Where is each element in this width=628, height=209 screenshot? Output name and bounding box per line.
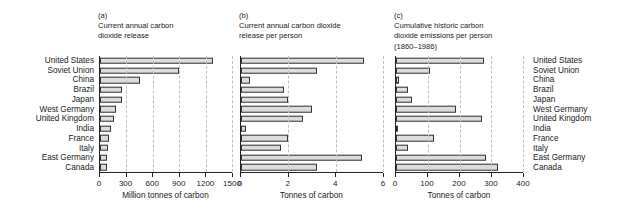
country-label-united-states: United States <box>533 56 582 66</box>
country-label-india: India <box>533 124 551 134</box>
panel-a: (a)Current annual carbon dioxide release… <box>96 0 236 209</box>
bar-a-canada <box>100 164 107 171</box>
panel-a-title: (a)Current annual carbon dioxide release <box>98 11 174 42</box>
panel-a-plot <box>99 56 232 173</box>
country-label-united-kingdom: United Kingdom <box>36 115 94 125</box>
country-label-united-kingdom: United Kingdom <box>533 115 591 125</box>
gridline-a-600 <box>153 56 154 172</box>
country-label-canada: Canada <box>65 163 94 173</box>
bar-c-brazil <box>396 87 408 94</box>
panel-c-title-text: Cumulative historic carbon dioxide emiss… <box>394 21 492 50</box>
tick-label-b-6: 6 <box>381 178 385 189</box>
bar-b-united-kingdom <box>241 116 303 123</box>
panel-b-title-text: Current annual carbon dioxide release pe… <box>239 21 341 40</box>
country-label-canada: Canada <box>533 163 562 173</box>
gridline-a-1500 <box>232 56 233 172</box>
tick-label-b-4: 4 <box>333 178 337 189</box>
tick-a-600 <box>152 173 153 177</box>
bar-c-india <box>396 125 398 132</box>
bar-b-china <box>241 77 250 84</box>
bar-row <box>241 143 383 153</box>
panel-c-ticks <box>395 173 523 177</box>
bar-c-east-germany <box>396 154 486 161</box>
bar-c-west-germany <box>396 106 456 113</box>
tick-c-400 <box>523 173 524 177</box>
bar-row <box>100 56 232 66</box>
bar-row <box>241 85 383 95</box>
tick-label-b-2: 2 <box>285 178 289 189</box>
country-label-italy: Italy <box>533 144 548 154</box>
bar-row <box>241 124 383 134</box>
panel-a-tag: (a) <box>98 11 174 21</box>
gridline-a-1200 <box>206 56 207 172</box>
bar-a-west-germany <box>100 106 116 113</box>
bar-row <box>100 85 232 95</box>
tick-c-300 <box>491 173 492 177</box>
panel-c-tick-labels: 0100200300400 <box>395 178 523 189</box>
gridline-b-4 <box>336 56 337 172</box>
gridline-c-300 <box>491 56 492 172</box>
panel-b-title: (b)Current annual carbon dioxide release… <box>239 11 341 42</box>
country-label-china: China <box>533 76 554 86</box>
country-label-france: France <box>69 134 94 144</box>
bar-a-france <box>100 135 109 142</box>
country-label-india: India <box>76 124 94 134</box>
bar-c-canada <box>396 164 498 171</box>
bar-row <box>100 162 232 172</box>
bar-b-brazil <box>241 87 284 94</box>
panel-b-bars <box>241 56 383 172</box>
country-labels-left: United StatesSoviet UnionChinaBrazilJapa… <box>8 56 94 173</box>
tick-label-a-1200: 1200 <box>196 178 214 189</box>
bar-row <box>100 114 232 124</box>
country-label-china: China <box>73 76 94 86</box>
country-label-italy: Italy <box>79 144 94 154</box>
bar-c-soviet-union <box>396 67 430 74</box>
tick-label-c-200: 200 <box>452 178 465 189</box>
bar-row <box>100 95 232 105</box>
country-label-east-germany: East Germany <box>42 154 94 164</box>
tick-c-100 <box>427 173 428 177</box>
country-label-east-germany: East Germany <box>533 154 585 164</box>
bar-row <box>241 162 383 172</box>
bar-b-italy <box>241 145 281 152</box>
bar-row <box>100 66 232 76</box>
tick-b-4 <box>335 173 336 177</box>
gridline-c-100 <box>428 56 429 172</box>
tick-label-c-100: 100 <box>420 178 433 189</box>
tick-label-a-600: 600 <box>146 178 159 189</box>
bar-a-soviet-union <box>100 67 179 74</box>
gridline-c-200 <box>460 56 461 172</box>
bar-a-united-kingdom <box>100 116 114 123</box>
gridline-c-400 <box>523 56 524 172</box>
tick-label-a-300: 300 <box>119 178 132 189</box>
country-label-united-states: United States <box>45 56 94 66</box>
bar-row <box>100 104 232 114</box>
panel-c-plot <box>395 56 523 173</box>
country-label-west-germany: West Germany <box>40 105 94 115</box>
gridline-b-2 <box>288 56 289 172</box>
panel-a-tick-labels: 030060090012001500 <box>99 178 232 189</box>
bar-row <box>241 66 383 76</box>
panel-b-ticks <box>240 173 383 177</box>
bar-row <box>241 75 383 85</box>
tick-b-0 <box>240 173 241 177</box>
gridline-b-6 <box>383 56 384 172</box>
panel-a-ticks <box>99 173 232 177</box>
bar-b-soviet-union <box>241 67 317 74</box>
bar-b-united-states <box>241 58 364 65</box>
bar-row <box>100 75 232 85</box>
bar-c-united-states <box>396 58 484 65</box>
bar-a-east-germany <box>100 154 107 161</box>
bar-a-china <box>100 77 140 84</box>
tick-a-1500 <box>232 173 233 177</box>
tick-a-1200 <box>205 173 206 177</box>
bar-row <box>241 133 383 143</box>
tick-b-2 <box>288 173 289 177</box>
panel-c-title: (c)Cumulative historic carbon dioxide em… <box>394 11 492 52</box>
country-label-brazil: Brazil <box>533 85 553 95</box>
panel-a-bars <box>100 56 232 172</box>
panel-c: (c)Cumulative historic carbon dioxide em… <box>392 0 527 209</box>
tick-label-b-0: 0 <box>238 178 242 189</box>
country-label-west-germany: West Germany <box>533 105 587 115</box>
panel-b-plot <box>240 56 383 173</box>
